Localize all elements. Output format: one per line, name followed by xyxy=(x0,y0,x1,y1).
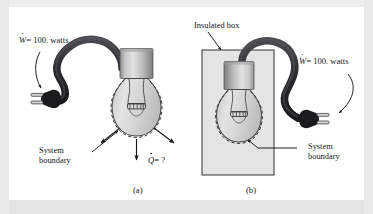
heat-arrow-a-right xyxy=(154,128,174,143)
plug-b-prong-bottom xyxy=(317,121,329,124)
figure-artwork xyxy=(0,0,373,214)
system-boundary-label-b-line1: System xyxy=(308,142,340,152)
bulb-b-socket-top-band xyxy=(224,62,254,65)
insulated-box-leader xyxy=(208,32,221,50)
panel-a-artwork xyxy=(31,38,174,160)
work-leader-a xyxy=(36,52,41,88)
plug-a-prong-bottom xyxy=(31,101,43,104)
system-boundary-label-b: System boundary xyxy=(308,142,340,162)
bulb-a-glass xyxy=(112,79,161,137)
work-label-a: W= 100. watts xyxy=(19,36,69,46)
work-leader-b xyxy=(339,74,353,113)
system-boundary-label-a-line1: System xyxy=(39,146,71,156)
work-symbol-b-dot: W xyxy=(299,57,306,67)
system-boundary-label-a-line2: boundary xyxy=(39,156,71,166)
bulb-b-socket xyxy=(224,62,254,90)
heat-arrow-a-left xyxy=(101,128,120,143)
system-boundary-label-b-line2: boundary xyxy=(308,152,340,162)
bulb-b-glass xyxy=(217,90,262,143)
work-label-b: W= 100. watts xyxy=(299,57,349,67)
panel-a-caption: (a) xyxy=(133,186,143,196)
insulated-box-label: Insulated box xyxy=(194,21,239,30)
plug-a-prong-top xyxy=(31,93,43,96)
work-symbol-a-dot: W xyxy=(19,36,26,46)
plug-a-body xyxy=(41,90,61,108)
plug-b-prong-top xyxy=(317,113,329,116)
plug-b-body xyxy=(299,110,319,128)
boundary-leader-a xyxy=(92,131,118,152)
heat-label-a: Q= ? xyxy=(148,156,165,166)
figure-container: W= 100. watts Q= ? System boundary (a) I… xyxy=(0,0,373,214)
panel-b-caption: (b) xyxy=(246,186,256,196)
bulb-a-socket-top-band xyxy=(120,49,153,52)
bulb-a-socket xyxy=(120,49,153,79)
system-boundary-label-a: System boundary xyxy=(39,146,71,166)
heat-value-a: = ? xyxy=(154,155,165,165)
heat-symbol-a-dot: Q xyxy=(148,156,154,166)
work-value-b: = 100. watts xyxy=(306,56,348,66)
work-value-a: = 100. watts xyxy=(26,35,68,45)
